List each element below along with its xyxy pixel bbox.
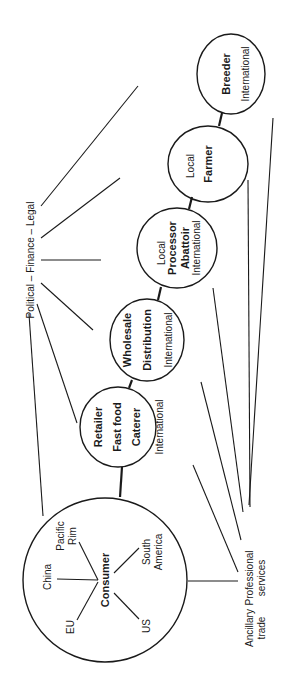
link-processor-wholesale [158,287,161,300]
consumer-label: Consumer [99,552,111,607]
prof-line-wholesale [201,382,241,540]
prof-line-breeder-right [249,118,273,505]
trade-label: trade [256,616,267,639]
retailer-intl: International [154,399,165,454]
abattoir-label: Abattoir [179,226,191,269]
link-breeder-farmer [219,113,222,126]
distribution-label: Distribution [141,309,153,371]
professional-lines [188,118,273,581]
pfl-line-wholesale [41,283,93,330]
node-retailer: Retailer Fast food Caterer International [80,387,165,467]
link-wholesale-retailer [129,380,132,388]
wholesale-label: Wholesale [121,313,133,367]
pfl-line-retailer [37,304,77,423]
supply-chain-diagram: Breeder International Local Farmer Local… [0,0,288,698]
processor-label: Processor [166,220,178,275]
node-wholesale: Wholesale Distribution International [110,299,184,381]
processor-intl: International [191,220,202,275]
spoke-south-america [114,548,139,573]
china-label: China [42,564,53,591]
breeder-label: Breeder [220,52,232,94]
wholesale-intl: International [163,312,174,367]
pfl-line-farmer [41,178,120,238]
link-retailer-consumer [120,467,122,497]
eu-label: EU [65,620,76,634]
farmer-scope: Local [185,154,196,178]
node-consumer: Consumer China Pacific Rim EU US South A… [23,498,187,662]
services-label: services [256,560,267,597]
caterer-label: Caterer [130,407,142,446]
spoke-pacific [79,542,98,580]
spoke-eu [77,582,98,620]
fastfood-label: Fast food [111,402,123,452]
pfl-line-consumer [29,314,43,516]
spoke-china [57,579,98,580]
prof-line-farmer [248,180,250,507]
node-breeder: Breeder International [197,34,265,114]
us-label: US [141,619,152,633]
america-label: America [153,533,164,570]
rim-label: Rim [67,527,78,545]
prof-line-retailer [193,465,238,572]
node-processor: Local Processor Abattoir International [137,208,217,288]
prof-line-processor [213,288,243,512]
retailer-label: Retailer [92,406,104,447]
political-finance-legal-label: Political – Finance – Legal [25,202,36,319]
south-label: South [141,539,152,565]
spoke-us [114,593,139,619]
pfl-line-breeder [41,86,138,206]
farmer-label: Farmer [202,145,214,183]
pacific-label: Pacific [55,521,66,550]
breeder-scope: International [240,46,251,101]
ancillary-label: Ancillary [244,609,255,647]
professional-label: Professional [244,550,255,605]
node-farmer: Local Farmer [168,126,248,202]
